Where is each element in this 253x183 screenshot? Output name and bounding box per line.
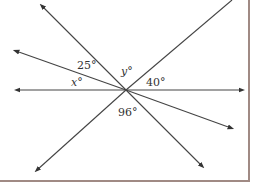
ascending-line-down — [37, 90, 126, 170]
angle-25-label: 25° — [77, 59, 97, 72]
angle-x-label: x° — [71, 76, 83, 89]
angle-diagram: 25° y° 40° x° 96° — [0, 0, 253, 183]
shallow-descending-line-down — [126, 90, 231, 128]
steep-descending-line-down — [126, 90, 202, 166]
steep-descending-line-up — [42, 6, 126, 90]
angle-96-label: 96° — [118, 106, 138, 119]
angle-y-label: y° — [120, 65, 133, 78]
angle-40-label: 40° — [146, 76, 166, 89]
ascending-line-up — [126, 0, 232, 90]
